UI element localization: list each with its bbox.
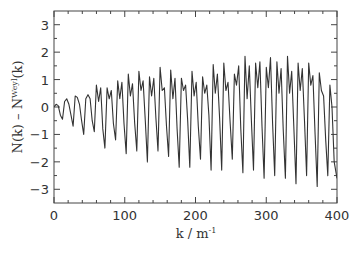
plot-frame xyxy=(54,11,337,203)
data-series-line xyxy=(54,56,337,186)
x-tick-label: 100 xyxy=(112,208,137,223)
chart: 0100200300400−3−2−10123 k / m-1 N(k) – N… xyxy=(0,0,356,255)
y-tick-label: −3 xyxy=(30,182,49,197)
y-tick-label: 3 xyxy=(41,18,49,33)
y-tick-label: −1 xyxy=(30,127,49,142)
x-tick-label: 300 xyxy=(254,208,279,223)
y-tick-label: 0 xyxy=(41,100,49,115)
y-tick-label: −2 xyxy=(30,155,49,170)
y-axis-label: N(k) – NWeyl(k) xyxy=(10,61,25,154)
x-tick-label: 200 xyxy=(183,208,208,223)
y-tick-label: 2 xyxy=(41,45,49,60)
axis-ticks xyxy=(54,11,337,203)
axis-tick-labels: 0100200300400−3−2−10123 xyxy=(30,18,350,223)
x-tick-label: 0 xyxy=(50,208,58,223)
x-tick-label: 400 xyxy=(325,208,350,223)
x-axis-label: k / m-1 xyxy=(176,226,217,241)
y-tick-label: 1 xyxy=(41,73,49,88)
